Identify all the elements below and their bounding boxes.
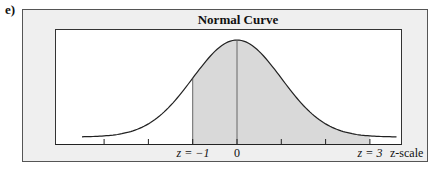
tick-label-z-3: z = 3 — [357, 146, 383, 160]
chart-title: Normal Curve — [198, 12, 279, 27]
normal-curve-chart: Normal Curve z = −1 0 z = 3 z-scale — [0, 0, 434, 171]
x-axis-label: z-scale — [390, 146, 423, 160]
tick-label-z-minus-1: z = −1 — [176, 146, 210, 160]
tick-label-zero: 0 — [234, 146, 240, 160]
